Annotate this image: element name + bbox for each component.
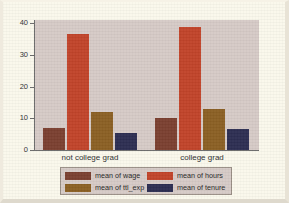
legend-label-ttl-exp: mean of ttl_exp bbox=[95, 184, 144, 192]
bars-layer bbox=[34, 20, 258, 150]
legend-label-wage: mean of wage bbox=[95, 172, 140, 180]
chart-page: 010203040 not college gradcollege grad m… bbox=[0, 0, 289, 203]
legend-item-tenure[interactable]: mean of tenure bbox=[146, 182, 228, 194]
legend-swatch-hours bbox=[147, 172, 173, 180]
legend-row: mean of wage mean of hours bbox=[64, 170, 228, 182]
y-axis-label: 10 bbox=[8, 114, 28, 122]
y-axis-label: 40 bbox=[8, 19, 28, 27]
y-axis-label: 0 bbox=[8, 146, 28, 154]
legend-item-ttl-exp[interactable]: mean of ttl_exp bbox=[64, 182, 146, 194]
y-axis-label: 30 bbox=[8, 51, 28, 59]
bar-mean-of-wage-college-grad bbox=[155, 118, 177, 150]
bar-mean-of-hours-not-college-grad bbox=[67, 34, 89, 150]
legend-item-wage[interactable]: mean of wage bbox=[64, 170, 146, 182]
bar-mean-of-tenure-college-grad bbox=[227, 129, 249, 150]
x-axis-line bbox=[34, 150, 259, 151]
bar-mean-of-ttl-exp-not-college-grad bbox=[91, 112, 113, 150]
bar-mean-of-hours-college-grad bbox=[179, 27, 201, 150]
bar-mean-of-tenure-not-college-grad bbox=[115, 133, 137, 150]
y-axis-tick bbox=[30, 150, 34, 151]
legend-row: mean of ttl_exp mean of tenure bbox=[64, 182, 228, 194]
legend-swatch-tenure bbox=[147, 184, 173, 192]
legend-swatch-wage bbox=[65, 172, 91, 180]
legend: mean of wage mean of hours mean of ttl_e… bbox=[60, 167, 232, 195]
bar-mean-of-wage-not-college-grad bbox=[43, 128, 65, 150]
legend-label-hours: mean of hours bbox=[177, 172, 223, 180]
legend-swatch-ttl-exp bbox=[65, 184, 91, 192]
legend-item-hours[interactable]: mean of hours bbox=[146, 170, 228, 182]
x-axis-label-college-grad: college grad bbox=[146, 153, 258, 163]
bar-mean-of-ttl-exp-college-grad bbox=[203, 109, 225, 150]
legend-label-tenure: mean of tenure bbox=[177, 184, 225, 192]
x-axis-label-not-college-grad: not college grad bbox=[34, 153, 146, 163]
y-axis-label: 20 bbox=[8, 83, 28, 91]
